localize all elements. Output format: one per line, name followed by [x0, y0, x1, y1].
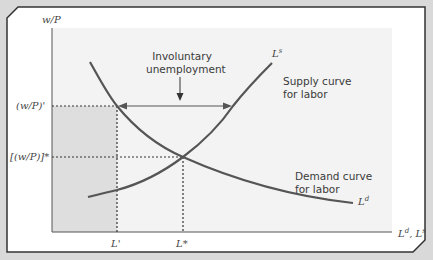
supply-curve-label: Supply curve for labor [283, 75, 352, 101]
supply-symbol-base: L [272, 48, 279, 59]
demand-label-line1: Demand curve [295, 170, 372, 183]
supply-symbol-sup: s [279, 47, 283, 55]
supply-label-line2: for labor [283, 88, 352, 101]
x-axis-label-ls-sup: s [422, 227, 426, 235]
invol-label-line2: unemployment [146, 63, 218, 76]
involuntary-unemployment-label: Involuntary unemployment [146, 50, 218, 76]
invol-label-line1: Involuntary [146, 50, 218, 63]
x-tick-l-star: L* [176, 238, 188, 250]
y-tick-wp-star: [(w/P)]* [10, 151, 49, 163]
x-axis-label: Ld, Ls [398, 228, 426, 240]
y-axis-label: w/P [42, 14, 61, 26]
y-tick-wp-prime: (w/P)' [16, 100, 45, 112]
demand-label-line2: for labor [295, 183, 372, 196]
supply-label-line1: Supply curve [283, 75, 352, 88]
demand-symbol-base: L [358, 196, 365, 207]
demand-symbol: Ld [358, 196, 369, 208]
supply-symbol: Ls [272, 48, 282, 60]
shaded-region [52, 106, 117, 232]
x-tick-l-prime: L' [111, 238, 120, 250]
x-axis-label-ld: L [398, 228, 405, 239]
diagram-canvas [0, 0, 433, 260]
demand-curve-label: Demand curve for labor [295, 170, 372, 196]
